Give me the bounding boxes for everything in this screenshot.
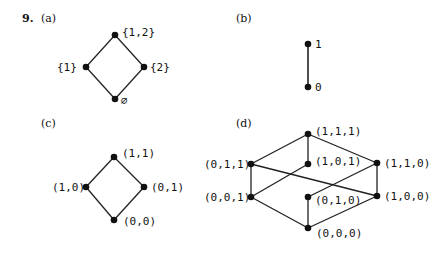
node — [112, 32, 119, 39]
node-label: (0,0,1) — [204, 191, 250, 204]
node-label: (1,1) — [122, 147, 155, 160]
node-label: (1,0) — [52, 181, 85, 194]
diagram-b: (b) 1 0 — [236, 12, 322, 94]
node — [305, 225, 312, 232]
node — [374, 160, 381, 167]
part-label-a: (a) — [41, 12, 56, 25]
node-label: (0,1,0) — [315, 194, 361, 207]
node — [141, 64, 148, 71]
node — [305, 161, 312, 168]
problem-number: 9. — [22, 12, 33, 25]
node — [374, 193, 381, 200]
node-label: (0,0) — [123, 215, 156, 228]
node-label: ∅ — [121, 94, 128, 107]
node — [305, 131, 312, 138]
node-label: {1} — [57, 61, 77, 74]
node-label: (1,0,1) — [315, 155, 361, 168]
node-label: (0,1) — [151, 181, 184, 194]
node — [83, 64, 90, 71]
part-label-d: (d) — [236, 117, 252, 130]
node — [112, 96, 119, 103]
diagram-d: (d) (1,1,1) (1,0,1) (0,1,1) (1,1,0) (0,0… — [204, 117, 430, 240]
node-label: (0,1,1) — [204, 158, 250, 171]
node-label: (0,0,0) — [316, 227, 362, 240]
node-label: (1,0,0) — [384, 190, 430, 203]
node-label: 0 — [315, 81, 322, 94]
hasse-diagrams-figure: 9. (a) {1,2} {1} {2} ∅ (b) 1 0 (c) (1,1)… — [0, 0, 445, 253]
part-label-b: (b) — [236, 12, 252, 25]
node — [111, 217, 118, 224]
node — [305, 84, 312, 91]
node — [141, 184, 148, 191]
node-label: {1,2} — [122, 26, 155, 39]
part-label-c: (c) — [41, 117, 56, 130]
node — [111, 154, 118, 161]
node — [305, 41, 312, 48]
node-label: {2} — [150, 61, 170, 74]
node-label: (1,1,0) — [384, 157, 430, 170]
node-label: (1,1,1) — [315, 125, 361, 138]
node — [305, 194, 312, 201]
diagram-c: (c) (1,1) (1,0) (0,1) (0,0) — [41, 117, 184, 228]
node-label: 1 — [315, 38, 322, 51]
diagram-a: (a) {1,2} {1} {2} ∅ — [41, 12, 170, 107]
